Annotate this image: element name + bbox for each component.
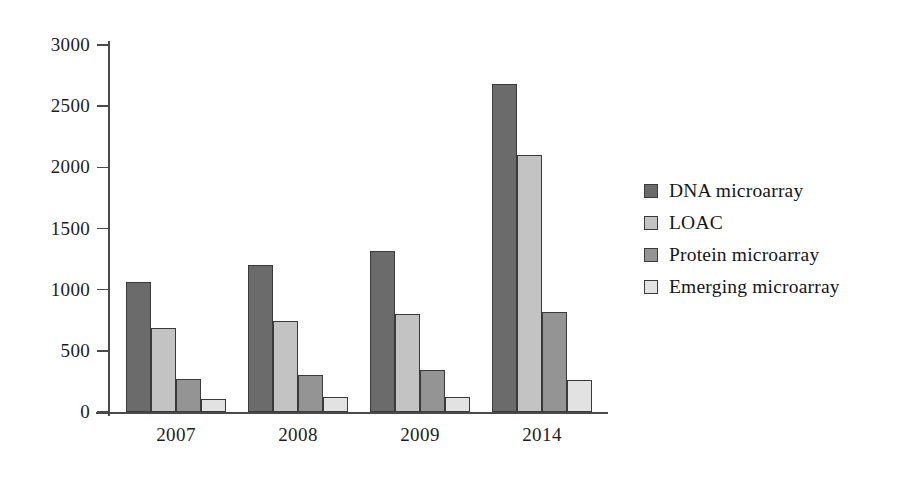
x-axis-label: 2008 bbox=[278, 424, 318, 446]
legend-item: DNA microarray bbox=[644, 175, 840, 207]
x-axis-label: 2014 bbox=[522, 424, 562, 446]
legend-label: Emerging microarray bbox=[669, 276, 840, 298]
chart-legend: DNA microarrayLOACProtein microarrayEmer… bbox=[644, 175, 840, 303]
y-tick-mark bbox=[97, 44, 108, 46]
x-axis-line bbox=[96, 412, 608, 414]
bar bbox=[420, 370, 445, 412]
y-tick-label: 1500 bbox=[51, 218, 90, 240]
bar bbox=[298, 375, 323, 412]
bar bbox=[176, 379, 201, 412]
bar bbox=[370, 251, 395, 412]
legend-swatch-icon bbox=[644, 216, 658, 230]
legend-label: DNA microarray bbox=[669, 180, 803, 202]
legend-label: LOAC bbox=[669, 212, 723, 234]
y-tick-mark bbox=[97, 350, 108, 352]
legend-swatch-icon bbox=[644, 248, 658, 262]
bar bbox=[567, 380, 592, 412]
x-axis-label: 2009 bbox=[400, 424, 440, 446]
legend-swatch-icon bbox=[644, 280, 658, 294]
y-tick-mark bbox=[97, 411, 108, 413]
bar bbox=[248, 265, 273, 412]
bar bbox=[323, 397, 348, 412]
y-tick-label: 2000 bbox=[51, 156, 90, 178]
plot-area bbox=[108, 45, 605, 412]
y-tick-label: 500 bbox=[61, 340, 90, 362]
y-tick-label: 0 bbox=[80, 401, 90, 423]
legend-swatch-icon bbox=[644, 184, 658, 198]
bar bbox=[151, 328, 176, 412]
bar bbox=[445, 397, 470, 412]
y-tick-label: 3000 bbox=[51, 34, 90, 56]
y-tick-mark bbox=[97, 167, 108, 169]
legend-label: Protein microarray bbox=[669, 244, 819, 266]
bar bbox=[492, 84, 517, 412]
y-tick-mark bbox=[97, 289, 108, 291]
y-tick-label: 2500 bbox=[51, 95, 90, 117]
bar bbox=[273, 321, 298, 412]
y-tick-mark bbox=[97, 105, 108, 107]
bar bbox=[126, 282, 151, 412]
bar bbox=[542, 312, 567, 412]
legend-item: Protein microarray bbox=[644, 239, 840, 271]
bar-chart: 050010001500200025003000 200720082009201… bbox=[0, 0, 903, 477]
y-tick-mark bbox=[97, 228, 108, 230]
legend-item: Emerging microarray bbox=[644, 271, 840, 303]
bar bbox=[201, 399, 226, 412]
y-tick-label: 1000 bbox=[51, 279, 90, 301]
bar bbox=[517, 155, 542, 412]
legend-item: LOAC bbox=[644, 207, 840, 239]
x-axis-label: 2007 bbox=[156, 424, 196, 446]
bar bbox=[395, 314, 420, 412]
